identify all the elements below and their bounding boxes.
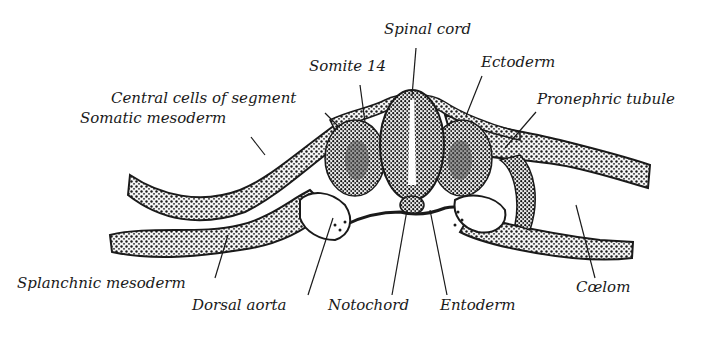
- label-dorsal-aorta: Dorsal aorta: [192, 298, 287, 313]
- left-aorta-region: [300, 193, 350, 240]
- label-pronephric-tubule: Pronephric tubule: [537, 92, 675, 107]
- label-somite-14: Somite 14: [309, 59, 386, 74]
- label-coelom: Cœlom: [576, 280, 630, 295]
- label-notochord: Notochord: [328, 298, 409, 313]
- label-entoderm: Entoderm: [440, 298, 516, 313]
- label-ectoderm: Ectoderm: [481, 55, 555, 70]
- embryo-cross-section-diagram: Spinal cord Somite 14 Ectoderm Central c…: [0, 0, 721, 339]
- notochord: [400, 196, 424, 214]
- label-central-cells-of-segment: Central cells of segment: [111, 91, 296, 106]
- label-somatic-mesoderm: Somatic mesoderm: [80, 111, 226, 126]
- label-splanchnic-mesoderm: Splanchnic mesoderm: [17, 276, 186, 291]
- label-spinal-cord: Spinal cord: [384, 22, 471, 37]
